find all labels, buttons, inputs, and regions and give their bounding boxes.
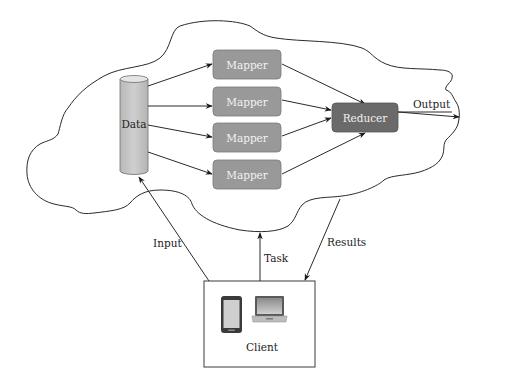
reducer-label: Reducer: [343, 112, 389, 124]
output-label: Output: [413, 98, 451, 110]
results-label: Results: [327, 236, 366, 248]
mapper-label: Mapper: [226, 59, 269, 71]
client-label: Client: [246, 341, 279, 353]
data-store: Data: [120, 76, 148, 175]
client-node: Client: [204, 281, 315, 367]
input-label: Input: [153, 237, 182, 249]
mapper-node-3: Mapper: [213, 123, 281, 152]
reducer-node: Reducer: [332, 103, 398, 132]
task-label: Task: [264, 252, 289, 264]
mapper-node-1: Mapper: [213, 50, 281, 79]
mapper-node-2: Mapper: [213, 87, 281, 116]
data-store-label: Data: [121, 118, 146, 130]
smartphone-icon: [221, 296, 242, 333]
laptop-icon: [252, 296, 287, 322]
mapper-node-4: Mapper: [213, 160, 281, 189]
mapper-label: Mapper: [226, 132, 269, 144]
mapreduce-diagram: Data Mapper Mapper Mapper Mapper Reducer…: [0, 0, 505, 385]
mapper-label: Mapper: [226, 169, 269, 181]
mapper-label: Mapper: [226, 96, 269, 108]
